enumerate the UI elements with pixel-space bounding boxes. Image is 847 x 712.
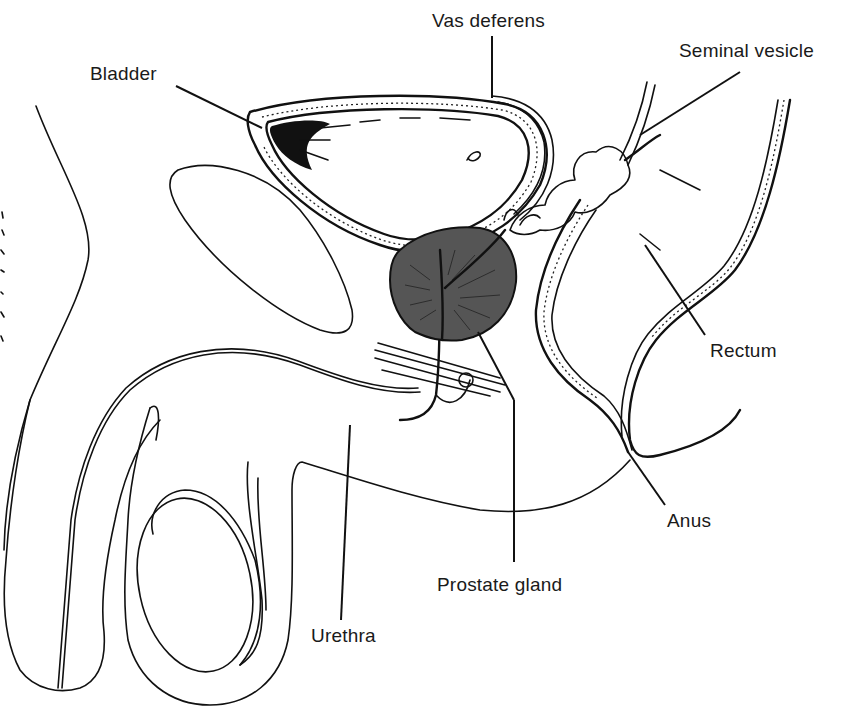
label-anus: Anus xyxy=(667,510,711,532)
leader-anus xyxy=(628,452,665,505)
leader-seminal-vesicle xyxy=(640,72,740,135)
leader-urethra xyxy=(341,425,350,620)
scrotum-outline xyxy=(125,408,630,705)
prostate-gland xyxy=(390,227,516,340)
penis-outline xyxy=(4,400,160,691)
label-rectum: Rectum xyxy=(710,340,777,362)
label-vas-deferens: Vas deferens xyxy=(432,10,545,32)
label-bladder: Bladder xyxy=(90,63,157,85)
leader-prostate-1 xyxy=(478,332,514,400)
pubic-bone xyxy=(170,166,353,334)
rectum-anterior-wall xyxy=(536,200,628,452)
anatomy-diagram: Vas deferens Seminal vesicle Bladder Rec… xyxy=(0,0,847,712)
label-prostate-gland: Prostate gland xyxy=(437,574,562,596)
rectum-posterior-wall xyxy=(629,100,790,457)
epididymis xyxy=(152,490,261,665)
label-urethra: Urethra xyxy=(311,625,376,647)
testis xyxy=(122,487,268,682)
ureter-orifice xyxy=(467,152,480,161)
abdominal-wall-outline xyxy=(4,106,89,550)
margin-marks xyxy=(1,212,4,341)
leader-bladder xyxy=(176,86,262,128)
label-seminal-vesicle: Seminal vesicle xyxy=(679,40,814,62)
